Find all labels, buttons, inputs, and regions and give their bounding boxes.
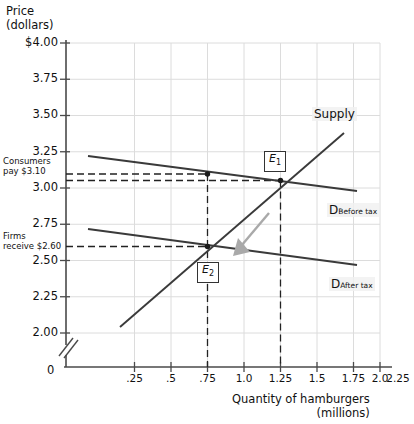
equilibrium-e2-letter: E (202, 263, 209, 276)
equilibrium-e1-subscript: 1 (276, 158, 281, 167)
demand-before-tax-letter: D (329, 203, 338, 217)
y-tick-label-2-25: 2.25 (0, 289, 58, 303)
equilibrium-e2-box: E2 (197, 262, 219, 283)
y-tick-label-2-75: 2.75 (0, 216, 58, 230)
demand-after-tax-letter: D (331, 277, 340, 291)
annotation-consumers-pay: Consumers pay $3.10 (3, 156, 51, 176)
supply-curve (120, 133, 344, 327)
x-tick-label-0-75: .75 (188, 372, 228, 384)
x-tick-label-0-5: .5 (151, 372, 191, 384)
marker-consumers-pay-point (205, 171, 210, 176)
equilibrium-e1-letter: E (269, 152, 276, 165)
annotation-consumers-line2: pay $3.10 (3, 166, 46, 176)
y-tick-label-2-00: 2.00 (0, 325, 58, 339)
x-tick-label-0-25: .25 (115, 372, 155, 384)
demand-before-tax-label: DBefore tax (327, 203, 379, 217)
annotation-firms-receive: Firms receive $2.60 (3, 231, 61, 251)
y-tick-label-3-00: 3.00 (0, 180, 58, 194)
annotation-consumers-line1: Consumers (3, 156, 51, 166)
x-tick-label-1-5: 1.5 (297, 372, 337, 384)
x-axis-title-line2: (millions) (232, 406, 370, 420)
annotation-firms-line2: receive $2.60 (3, 241, 61, 251)
y-tick-label-2-50: 2.50 (0, 253, 58, 267)
demand-shift-arrow (233, 213, 269, 256)
supply-curve-label: Supply (312, 107, 357, 121)
marker-e1-point (278, 178, 283, 183)
equilibrium-e1-box: E1 (264, 151, 286, 172)
equilibrium-e2-subscript: 2 (209, 269, 214, 278)
y-axis-title-line2: (dollars) (6, 18, 53, 32)
x-axis-title: Quantity of hamburgers(millions) (232, 392, 370, 420)
y-tick-label-3-50: 3.50 (0, 107, 58, 121)
demand-after-tax-subscript: After tax (340, 281, 372, 290)
x-tick-label-2-25: 2.25 (378, 372, 414, 384)
x-tick-label-1-25: 1.25 (261, 372, 301, 384)
y-tick-label-4-00: $4.00 (0, 35, 58, 49)
y-tick-marks (60, 43, 70, 333)
demand-before-tax-subscript: Before tax (338, 207, 377, 216)
x-axis-title-line1: Quantity of hamburgers (232, 392, 370, 406)
marker-e2-point (205, 244, 210, 249)
origin-label: 0 (47, 363, 54, 377)
y-axis-title: Price (dollars) (6, 4, 53, 32)
demand-after-tax-label: DAfter tax (329, 277, 375, 291)
x-tick-label-1-0: 1.0 (224, 372, 264, 384)
y-axis-title-line1: Price (6, 4, 34, 18)
y-tick-label-3-75: 3.75 (0, 71, 58, 85)
annotation-firms-line1: Firms (3, 231, 26, 241)
axis-break-icon (59, 338, 78, 358)
